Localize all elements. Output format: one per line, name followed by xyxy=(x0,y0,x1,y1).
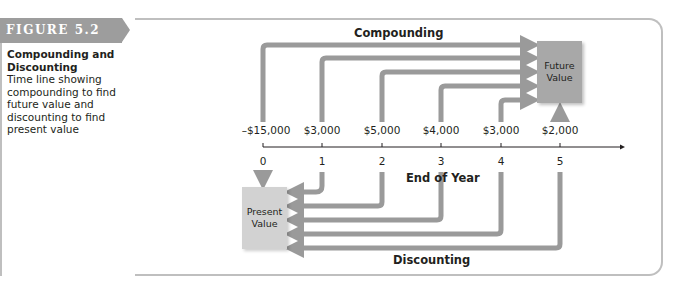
cash-flow-year3: $4,000 xyxy=(423,124,460,136)
year-label-2: 2 xyxy=(379,155,386,167)
present-value-box: Present Value xyxy=(242,187,287,249)
year-label-4: 4 xyxy=(498,155,505,167)
future-value-label: Future Value xyxy=(543,60,577,84)
discount-arrow-year2 xyxy=(294,172,382,206)
compounding-label: Compounding xyxy=(354,26,443,40)
timeline-diagram xyxy=(0,0,690,293)
year-label-0: 0 xyxy=(260,155,267,167)
cash-flow-year0: –$15,000 xyxy=(242,124,291,136)
year-label-1: 1 xyxy=(319,155,326,167)
axis-label: End of Year xyxy=(406,171,480,185)
cash-flow-year4: $3,000 xyxy=(483,124,520,136)
cash-flow-year1: $3,000 xyxy=(304,124,341,136)
cash-flow-year2: $5,000 xyxy=(364,124,401,136)
compound-arrow-year4 xyxy=(501,100,530,122)
year-label-3: 3 xyxy=(438,155,445,167)
axis-arrowhead xyxy=(620,145,625,150)
future-value-box: Future Value xyxy=(537,41,582,103)
discounting-label: Discounting xyxy=(393,253,470,267)
year-label-5: 5 xyxy=(557,155,564,167)
discount-arrow-year1 xyxy=(294,172,322,192)
cash-flow-year5: $2,000 xyxy=(542,124,579,136)
present-value-label: Present Value xyxy=(245,206,285,230)
compound-arrow-year2 xyxy=(382,72,530,122)
compound-arrow-year3 xyxy=(441,86,530,122)
